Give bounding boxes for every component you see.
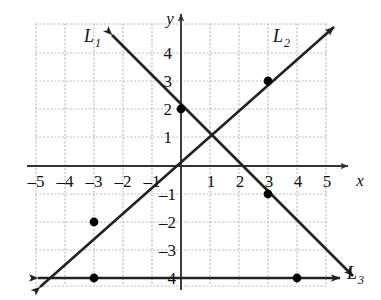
x-tick-label-5: 5 xyxy=(323,172,332,191)
coordinate-plane-figure: –5 –4 –3 –2 –1 1 2 3 4 5 4 3 2 1 –1 –2 –… xyxy=(0,0,381,300)
svg-text:L: L xyxy=(272,26,283,46)
y-tick-label-3: 3 xyxy=(164,72,173,91)
data-point xyxy=(177,105,186,114)
line-label-L2: L 2 xyxy=(272,26,290,50)
y-tick-label--4: 4 xyxy=(168,269,177,288)
y-tick-label-1: 1 xyxy=(164,128,173,147)
line-L1 xyxy=(112,35,353,276)
x-tick-label--5: –5 xyxy=(27,172,45,191)
x-tick-label--3: –3 xyxy=(85,172,103,191)
data-point xyxy=(264,77,273,86)
line-label-L3: L 3 xyxy=(346,263,364,287)
x-tick-label-1: 1 xyxy=(207,172,216,191)
x-tick-label-2: 2 xyxy=(236,172,245,191)
graph-canvas: –5 –4 –3 –2 –1 1 2 3 4 5 4 3 2 1 –1 –2 –… xyxy=(0,0,381,300)
y-tick-label--1: –1 xyxy=(158,185,176,204)
x-tick-label--4: –4 xyxy=(56,172,75,191)
line-L2 xyxy=(40,27,334,287)
y-tick-label-2: 2 xyxy=(164,100,173,119)
x-axis-label: x xyxy=(355,171,364,190)
y-tick-label--2: –2 xyxy=(158,213,176,232)
line-label-L1: L 1 xyxy=(83,26,101,50)
x-tick-label-4: 4 xyxy=(294,172,303,191)
svg-text:3: 3 xyxy=(357,273,364,287)
data-point xyxy=(90,218,99,227)
data-point xyxy=(90,274,99,283)
svg-text:L: L xyxy=(346,263,357,283)
y-tick-label-4: 4 xyxy=(164,44,173,63)
svg-text:1: 1 xyxy=(95,36,101,50)
svg-text:L: L xyxy=(83,26,94,46)
x-tick-label--2: –2 xyxy=(114,172,132,191)
svg-text:2: 2 xyxy=(284,36,290,50)
x-tick-label-3: 3 xyxy=(265,172,274,191)
x-tick-label--1: –1 xyxy=(143,172,161,191)
data-point xyxy=(293,274,302,283)
y-axis-label: y xyxy=(164,9,174,28)
y-tick-label--3: –3 xyxy=(158,241,176,260)
